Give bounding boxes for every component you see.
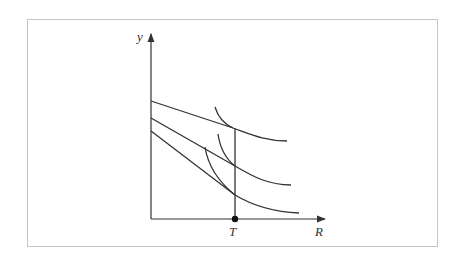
t-marker-label: T [229,224,237,239]
t-point-dot [232,216,238,222]
y-axis-label: y [135,29,143,44]
indifference-curve-3 [205,147,235,195]
x-axis-label: R [314,224,323,239]
budget-line-low [151,131,299,213]
budget-line-high [151,101,287,141]
budget-line-mid [151,118,291,185]
economics-diagram: y R T [0,0,465,259]
